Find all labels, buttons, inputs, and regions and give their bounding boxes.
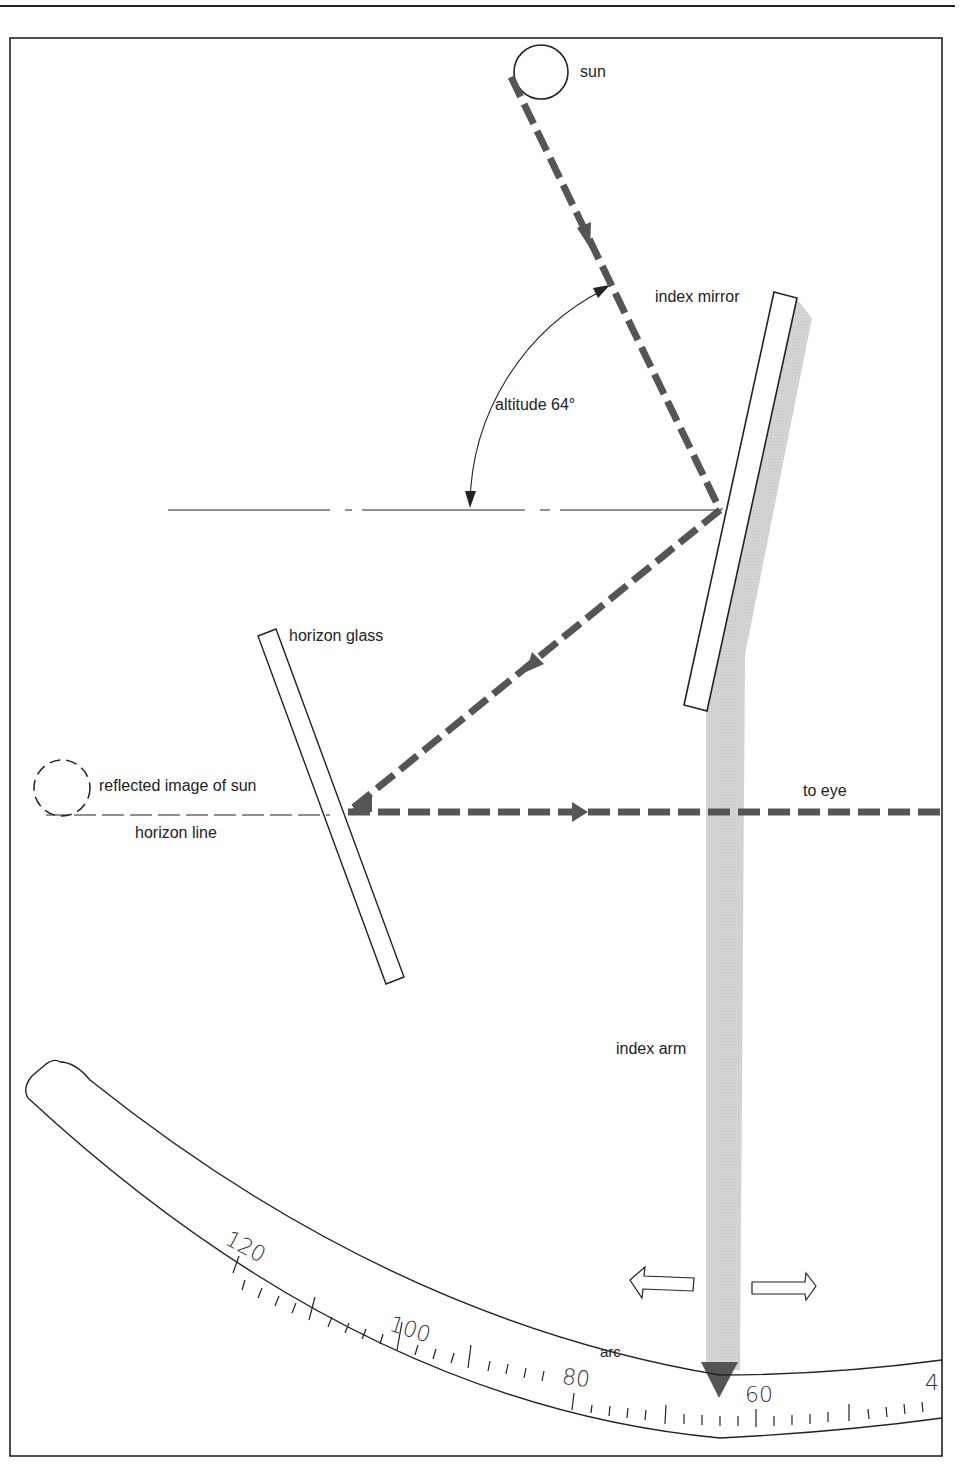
scale-label-100: 100	[386, 1311, 434, 1348]
move-left-arrow	[630, 1267, 694, 1298]
move-right-arrow	[752, 1273, 816, 1300]
horizon-glass-label: horizon glass	[289, 627, 383, 644]
ray-arrow-right	[572, 802, 588, 822]
scale-label-60: 60	[745, 1382, 773, 1407]
index-pointer	[701, 1362, 738, 1398]
arc-label: arc	[600, 1343, 621, 1360]
reflected-image-label: reflected image of sun	[99, 777, 256, 794]
scale-label-120: 120	[221, 1226, 270, 1268]
horizon-line-label: horizon line	[135, 824, 217, 841]
horizon-glass	[258, 629, 404, 984]
to-eye-label: to eye	[803, 782, 847, 799]
sextant-diagram: 120 100 80 60 4 sun index mirror altitud…	[0, 0, 969, 1470]
index-mirror-label: index mirror	[655, 288, 740, 305]
reflected-sun-icon	[34, 760, 90, 816]
index-arm-label: index arm	[616, 1040, 686, 1057]
altitude-arrowhead-bottom	[465, 491, 476, 508]
figure-frame	[10, 38, 942, 1456]
altitude-arrowhead-top	[593, 285, 610, 298]
sun-icon	[514, 45, 568, 99]
scale-label-4: 4	[925, 1370, 939, 1395]
scale-label-80: 80	[560, 1364, 591, 1393]
altitude-label: altitude 64°	[495, 396, 575, 413]
light-ray	[348, 77, 942, 812]
sun-label: sun	[580, 63, 606, 80]
arc-scale	[26, 1060, 942, 1438]
scale-ticks	[233, 1256, 923, 1427]
